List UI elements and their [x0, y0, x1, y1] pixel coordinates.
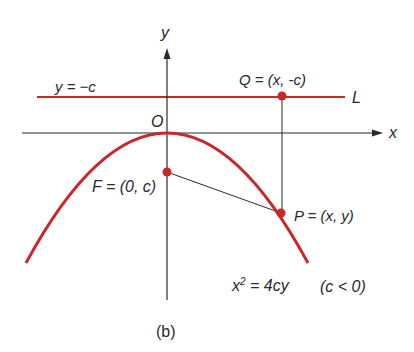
- point-f-label: F = (0, c): [92, 179, 156, 195]
- parabola-diagram: y x O y = −c L Q = (x, -c) F = (0, c) P …: [0, 0, 414, 352]
- point-p: [277, 209, 286, 218]
- x-axis-arrow-icon: [372, 130, 383, 137]
- equation-lhs: x: [232, 277, 240, 294]
- directrix-name-label: L: [352, 90, 361, 106]
- figure-caption: (b): [156, 324, 176, 340]
- point-f: [163, 168, 172, 177]
- equation-rhs: = 4cy: [246, 277, 289, 294]
- point-p-label: P = (x, y): [294, 208, 354, 223]
- directrix-equation-label: y = −c: [55, 79, 96, 94]
- point-q-label: Q = (x, -c): [239, 72, 306, 87]
- y-axis-arrow-icon: [164, 48, 171, 59]
- point-q: [278, 92, 287, 101]
- parabola-equation-label: x2 = 4cy: [232, 277, 289, 294]
- y-axis-label: y: [161, 25, 169, 41]
- parabola-condition-label: (c < 0): [320, 279, 366, 295]
- diagram-canvas: [0, 0, 414, 352]
- x-axis-label: x: [389, 125, 397, 141]
- origin-label: O: [151, 114, 163, 130]
